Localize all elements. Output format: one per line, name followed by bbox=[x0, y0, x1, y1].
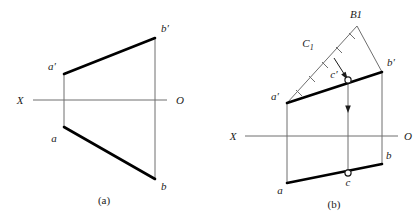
panel-b-point-c-label: c bbox=[346, 176, 351, 188]
panel-b-point-B1-label: B1 bbox=[350, 8, 362, 20]
panel-b-point-a-prime-label: a′ bbox=[271, 90, 280, 102]
panel-b-point-b-label: b bbox=[386, 149, 392, 161]
panel-a-caption: (a) bbox=[98, 194, 111, 207]
panel-b-true-length-line-b bbox=[357, 26, 382, 72]
panel-b-marker-c-prime bbox=[345, 77, 351, 83]
panel-b-group: X O B1 C1 a′ b′ c′ a b c (b) bbox=[229, 8, 412, 211]
panel-a-group: X O a′ b′ a b (a) bbox=[16, 22, 184, 207]
panel-a-point-a-label: a bbox=[51, 132, 57, 144]
panel-b-point-b-prime-label: b′ bbox=[387, 56, 396, 68]
panel-a-front-view-line bbox=[64, 38, 155, 74]
panel-b-point-C1-subscript: 1 bbox=[310, 43, 314, 52]
panel-b-axis-left-label: X bbox=[229, 130, 238, 142]
panel-b-projector-arrowhead bbox=[345, 106, 351, 114]
panel-b-point-a-label: a bbox=[277, 184, 283, 196]
figure-root: X O a′ b′ a b (a) bbox=[0, 0, 420, 220]
panel-a-top-view-line bbox=[64, 127, 155, 179]
panel-b-caption: (b) bbox=[328, 198, 341, 211]
panel-b-point-C1-label: C1 bbox=[302, 37, 313, 52]
panel-a-axis-right-label: O bbox=[176, 94, 184, 106]
panel-b-top-view-line bbox=[287, 164, 382, 183]
panel-b-point-c-prime-label: c′ bbox=[330, 68, 338, 80]
panel-b-axis-right-label: O bbox=[404, 130, 412, 142]
panel-a-point-b-label: b bbox=[161, 180, 167, 192]
panel-a-point-a-prime-label: a′ bbox=[48, 60, 57, 72]
panel-a-axis-left-label: X bbox=[16, 94, 25, 106]
engineering-drawing-svg: X O a′ b′ a b (a) bbox=[0, 0, 420, 220]
panel-a-point-b-prime-label: b′ bbox=[161, 22, 170, 34]
